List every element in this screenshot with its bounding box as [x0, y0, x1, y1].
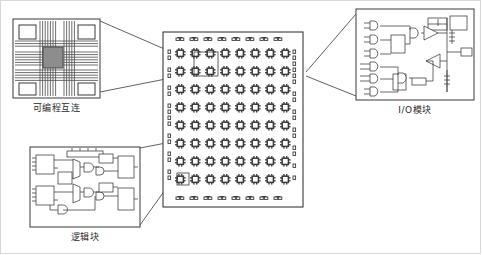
- mux-2: [73, 184, 80, 203]
- diagram-canvas: [0, 0, 482, 255]
- io-module-detail[interactable]: [356, 9, 474, 100]
- caption-programmable-interconnect: 可编程互连: [13, 101, 100, 114]
- config-box: [58, 172, 72, 184]
- logic-block-detail[interactable]: [30, 147, 140, 227]
- mux-1: [73, 159, 80, 179]
- caption-logic-block: 逻辑块: [30, 230, 140, 243]
- fpga-die[interactable]: [163, 32, 303, 207]
- switch-box: [43, 47, 63, 68]
- figure-root: 可编程互连 逻辑块 I/O模块: [0, 0, 482, 255]
- programmable-interconnect-detail[interactable]: [13, 19, 100, 98]
- callout-wedge-io-module: [306, 14, 356, 96]
- caption-io-module: I/O模块: [356, 103, 474, 116]
